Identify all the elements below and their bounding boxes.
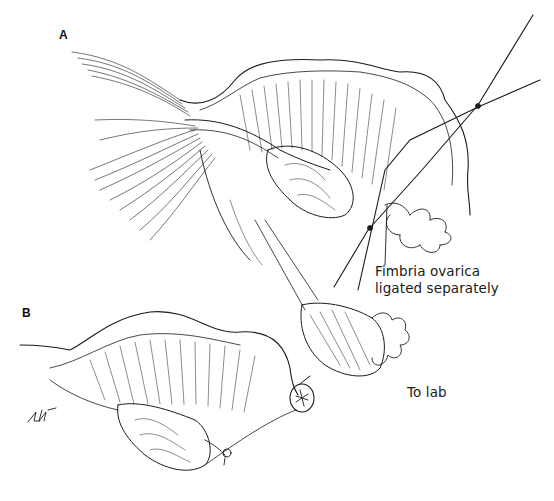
artist-signature — [26, 404, 60, 426]
mesosalpinx-b-striations — [90, 340, 255, 412]
illustration-canvas: A B Fimbria ovarica ligated separately T… — [0, 0, 554, 501]
panel-b-drawing — [0, 0, 554, 501]
